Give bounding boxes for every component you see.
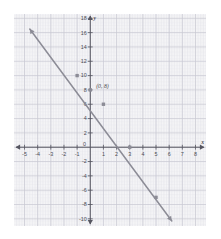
x-tick-label: -5	[22, 151, 27, 157]
y-tick-label: -8	[82, 201, 87, 207]
data-point	[102, 103, 105, 106]
y-tick-label: -4	[82, 173, 87, 179]
x-tick-label: 3	[128, 151, 131, 157]
x-tick-label: 2	[115, 151, 118, 157]
x-tick-label: 6	[168, 151, 171, 157]
data-point	[75, 74, 78, 77]
x-axis-label: x	[200, 139, 204, 145]
graph-svg: -5-4-3-2-1012345678-10-8-6-4-22468101214…	[14, 14, 206, 226]
chart-figure: -5-4-3-2-1012345678-10-8-6-4-22468101214…	[0, 0, 221, 239]
x-tick-label: 5	[155, 151, 158, 157]
x-tick-label: -1	[75, 151, 80, 157]
y-tick-label: 12	[81, 58, 87, 64]
y-tick-label: 16	[81, 30, 87, 36]
y-tick-label: 2	[84, 130, 87, 136]
x-tick-label: 4	[141, 151, 144, 157]
y-tick-label: -6	[82, 187, 87, 193]
x-tick-label: -4	[35, 151, 40, 157]
data-point	[154, 196, 157, 199]
point-annotation: (0, 8)	[96, 83, 109, 90]
x-tick-label: -2	[62, 151, 67, 157]
y-tick-label: 14	[81, 44, 87, 50]
y-tick-label: 18	[81, 15, 87, 21]
x-tick-label: -3	[48, 151, 53, 157]
y-axis-label: y	[92, 15, 96, 21]
y-tick-label: -2	[82, 158, 87, 164]
x-tick-label: 0	[83, 141, 86, 147]
x-tick-label: 8	[194, 151, 197, 157]
y-tick-label: 10	[81, 72, 87, 78]
data-point	[89, 88, 92, 91]
data-point	[128, 146, 131, 149]
x-tick-label: 1	[102, 151, 105, 157]
coordinate-plane: -5-4-3-2-1012345678-10-8-6-4-22468101214…	[14, 14, 206, 226]
y-tick-label: 4	[84, 115, 87, 121]
y-tick-label: -10	[79, 216, 87, 222]
y-tick-label: 8	[84, 87, 87, 93]
x-tick-label: 7	[181, 151, 184, 157]
